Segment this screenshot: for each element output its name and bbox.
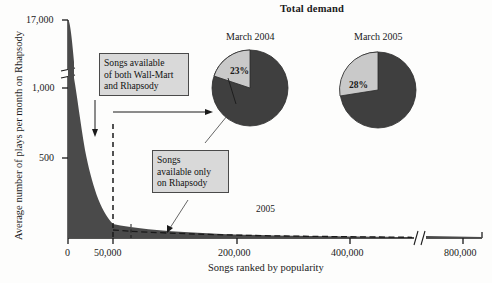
y-tick-label-500: 500 xyxy=(39,152,54,163)
arrow-callout-to-pie2004 xyxy=(113,109,213,115)
y-axis-title: Average number of plays per month on Rha… xyxy=(13,31,25,240)
callout-wallmart-line2: of both Wall-Mart xyxy=(104,69,184,81)
y-tick-label-17000: 17,000 xyxy=(26,14,54,25)
x-tick-label-0: 0 xyxy=(65,247,70,258)
callout-wallmart-line3: and Rhapsody xyxy=(104,80,184,92)
y-tick-label-1000: 1,000 xyxy=(32,82,55,93)
pie-chart-march-2004 xyxy=(212,50,288,126)
pie-2004-title: March 2004 xyxy=(226,31,275,42)
callout-wallmart-line1: Songs available xyxy=(104,57,184,69)
pie-2005-title: March 2005 xyxy=(354,31,403,42)
x-tick-label-400000: 400,000 xyxy=(331,247,364,258)
chart-figure: Total demand Average number of plays per… xyxy=(0,0,492,283)
x-tick-label-200000: 200,000 xyxy=(218,247,251,258)
callout-rhapsody-only: Songs available only on Rhapsody xyxy=(152,150,229,193)
chart-canvas xyxy=(0,0,492,283)
callout-rhapsody-line1: Songs xyxy=(157,154,224,166)
x-axis-title: Songs ranked by popularity xyxy=(208,262,324,274)
callout-rhapsody-line3: on Rhapsody xyxy=(157,177,224,189)
callout-wallmart-and-rhapsody: Songs available of both Wall-Mart and Rh… xyxy=(99,53,189,96)
pie-2004-percent: 23% xyxy=(230,66,249,77)
callout-rhapsody-line2: available only xyxy=(157,166,224,178)
x-tick-label-50000: 50,000 xyxy=(94,247,122,258)
arrow-callout-to-curve xyxy=(92,100,98,137)
chart-title: Total demand xyxy=(280,3,344,15)
x-tick-label-800000: 800,000 xyxy=(444,247,477,258)
series-label-2005: 2005 xyxy=(256,204,275,215)
pie-2005-percent: 28% xyxy=(349,80,368,91)
divider-line-50000 xyxy=(113,124,131,240)
